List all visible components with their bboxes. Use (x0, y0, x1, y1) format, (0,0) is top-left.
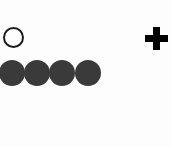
filled-circle-marker (49, 60, 75, 86)
filled-circle-marker (75, 60, 101, 86)
figure-canvas: One hollow circle above a row of four fi… (0, 0, 172, 147)
filled-circle-marker (24, 60, 50, 86)
filled-circle-marker (0, 60, 25, 86)
plus-icon (145, 27, 168, 50)
open-circle-marker (3, 27, 24, 48)
